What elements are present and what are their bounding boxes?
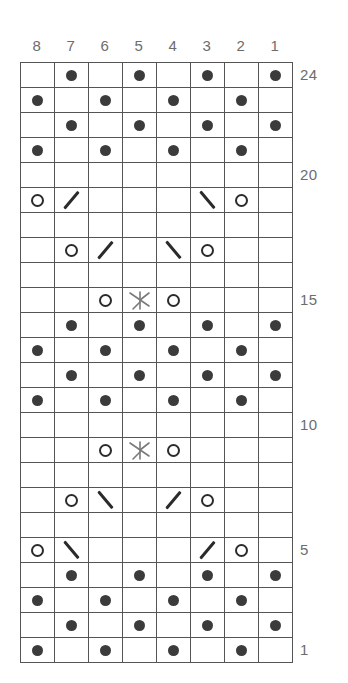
cell-r14-c5[interactable] bbox=[123, 313, 157, 338]
cell-r15-c3[interactable] bbox=[191, 288, 225, 313]
cell-r12-c4[interactable] bbox=[157, 363, 191, 388]
cell-r2-c6[interactable] bbox=[89, 613, 123, 638]
cell-r6-c6[interactable] bbox=[89, 513, 123, 538]
cell-r18-c6[interactable] bbox=[89, 213, 123, 238]
cell-r10-c6[interactable] bbox=[89, 413, 123, 438]
cell-r22-c1[interactable] bbox=[259, 113, 293, 138]
cell-r1-c2[interactable] bbox=[225, 638, 259, 663]
cell-r11-c6[interactable] bbox=[89, 388, 123, 413]
cell-r19-c1[interactable] bbox=[259, 188, 293, 213]
cell-r5-c8[interactable] bbox=[21, 538, 55, 563]
cell-r24-c5[interactable] bbox=[123, 63, 157, 88]
cell-r2-c7[interactable] bbox=[55, 613, 89, 638]
cell-r5-c1[interactable] bbox=[259, 538, 293, 563]
cell-r4-c5[interactable] bbox=[123, 563, 157, 588]
cell-r4-c8[interactable] bbox=[21, 563, 55, 588]
cell-r11-c3[interactable] bbox=[191, 388, 225, 413]
cell-r16-c8[interactable] bbox=[21, 263, 55, 288]
cell-r8-c1[interactable] bbox=[259, 463, 293, 488]
cell-r10-c1[interactable] bbox=[259, 413, 293, 438]
cell-r21-c5[interactable] bbox=[123, 138, 157, 163]
cell-r23-c1[interactable] bbox=[259, 88, 293, 113]
cell-r19-c6[interactable] bbox=[89, 188, 123, 213]
cell-r21-c1[interactable] bbox=[259, 138, 293, 163]
cell-r10-c8[interactable] bbox=[21, 413, 55, 438]
cell-r20-c6[interactable] bbox=[89, 163, 123, 188]
cell-r4-c6[interactable] bbox=[89, 563, 123, 588]
cell-r16-c4[interactable] bbox=[157, 263, 191, 288]
cell-r21-c8[interactable] bbox=[21, 138, 55, 163]
cell-r6-c2[interactable] bbox=[225, 513, 259, 538]
cell-r22-c8[interactable] bbox=[21, 113, 55, 138]
cell-r14-c1[interactable] bbox=[259, 313, 293, 338]
cell-r8-c3[interactable] bbox=[191, 463, 225, 488]
cell-r7-c4[interactable] bbox=[157, 488, 191, 513]
cell-r20-c4[interactable] bbox=[157, 163, 191, 188]
cell-r23-c2[interactable] bbox=[225, 88, 259, 113]
cell-r17-c1[interactable] bbox=[259, 238, 293, 263]
cell-r21-c6[interactable] bbox=[89, 138, 123, 163]
cell-r12-c2[interactable] bbox=[225, 363, 259, 388]
cell-r12-c6[interactable] bbox=[89, 363, 123, 388]
cell-r3-c1[interactable] bbox=[259, 588, 293, 613]
cell-r7-c6[interactable] bbox=[89, 488, 123, 513]
cell-r18-c8[interactable] bbox=[21, 213, 55, 238]
cell-r18-c4[interactable] bbox=[157, 213, 191, 238]
cell-r20-c8[interactable] bbox=[21, 163, 55, 188]
cell-r1-c7[interactable] bbox=[55, 638, 89, 663]
cell-r23-c4[interactable] bbox=[157, 88, 191, 113]
cell-r11-c7[interactable] bbox=[55, 388, 89, 413]
cell-r19-c5[interactable] bbox=[123, 188, 157, 213]
cell-r23-c8[interactable] bbox=[21, 88, 55, 113]
cell-r11-c4[interactable] bbox=[157, 388, 191, 413]
cell-r5-c3[interactable] bbox=[191, 538, 225, 563]
cell-r4-c7[interactable] bbox=[55, 563, 89, 588]
cell-r13-c2[interactable] bbox=[225, 338, 259, 363]
cell-r4-c4[interactable] bbox=[157, 563, 191, 588]
cell-r24-c7[interactable] bbox=[55, 63, 89, 88]
cell-r23-c7[interactable] bbox=[55, 88, 89, 113]
cell-r6-c3[interactable] bbox=[191, 513, 225, 538]
cell-r10-c2[interactable] bbox=[225, 413, 259, 438]
cell-r7-c2[interactable] bbox=[225, 488, 259, 513]
cell-r6-c4[interactable] bbox=[157, 513, 191, 538]
cell-r1-c3[interactable] bbox=[191, 638, 225, 663]
cell-r16-c2[interactable] bbox=[225, 263, 259, 288]
cell-r21-c4[interactable] bbox=[157, 138, 191, 163]
cell-r19-c4[interactable] bbox=[157, 188, 191, 213]
cell-r21-c3[interactable] bbox=[191, 138, 225, 163]
cell-r7-c7[interactable] bbox=[55, 488, 89, 513]
cell-r16-c1[interactable] bbox=[259, 263, 293, 288]
cell-r13-c8[interactable] bbox=[21, 338, 55, 363]
cell-r21-c2[interactable] bbox=[225, 138, 259, 163]
cell-r4-c1[interactable] bbox=[259, 563, 293, 588]
cell-r17-c2[interactable] bbox=[225, 238, 259, 263]
cell-r3-c5[interactable] bbox=[123, 588, 157, 613]
cell-r8-c4[interactable] bbox=[157, 463, 191, 488]
cell-r13-c3[interactable] bbox=[191, 338, 225, 363]
cell-r14-c6[interactable] bbox=[89, 313, 123, 338]
cell-r24-c3[interactable] bbox=[191, 63, 225, 88]
cell-r17-c4[interactable] bbox=[157, 238, 191, 263]
cell-r9-c2[interactable] bbox=[225, 438, 259, 463]
cell-r8-c5[interactable] bbox=[123, 463, 157, 488]
cell-r20-c7[interactable] bbox=[55, 163, 89, 188]
cell-r2-c5[interactable] bbox=[123, 613, 157, 638]
cell-r22-c6[interactable] bbox=[89, 113, 123, 138]
cell-r6-c1[interactable] bbox=[259, 513, 293, 538]
cell-r2-c1[interactable] bbox=[259, 613, 293, 638]
cell-r14-c3[interactable] bbox=[191, 313, 225, 338]
cell-r10-c5[interactable] bbox=[123, 413, 157, 438]
cell-r10-c3[interactable] bbox=[191, 413, 225, 438]
cell-r16-c6[interactable] bbox=[89, 263, 123, 288]
cell-r15-c6[interactable] bbox=[89, 288, 123, 313]
cell-r2-c2[interactable] bbox=[225, 613, 259, 638]
cell-r15-c2[interactable] bbox=[225, 288, 259, 313]
cell-r1-c4[interactable] bbox=[157, 638, 191, 663]
cell-r19-c7[interactable] bbox=[55, 188, 89, 213]
cell-r15-c5[interactable] bbox=[123, 288, 157, 313]
cell-r24-c1[interactable] bbox=[259, 63, 293, 88]
cell-r17-c3[interactable] bbox=[191, 238, 225, 263]
cell-r24-c8[interactable] bbox=[21, 63, 55, 88]
cell-r23-c3[interactable] bbox=[191, 88, 225, 113]
